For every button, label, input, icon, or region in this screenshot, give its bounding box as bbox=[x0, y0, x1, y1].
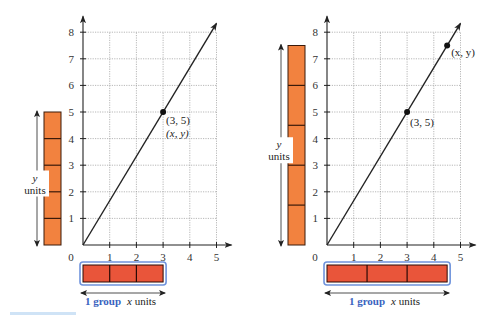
y-tick-label: 7 bbox=[313, 53, 319, 65]
data-point bbox=[444, 43, 450, 49]
proportional-line bbox=[327, 23, 461, 245]
origin-label: 0 bbox=[312, 251, 318, 263]
point-label: (3, 5) bbox=[410, 116, 434, 129]
graph-right: 12345123456780(3, 5)(x, y)yunits1 groupx… bbox=[267, 16, 476, 307]
y-tick-label: 6 bbox=[313, 79, 319, 91]
diagram-canvas: 12345123456780(3, 5)(x, y)yunits1 groupx… bbox=[0, 0, 486, 315]
vertical-tape-diagram: yunits bbox=[267, 45, 305, 247]
origin-label: 0 bbox=[68, 251, 74, 263]
group-label: 1 group bbox=[349, 295, 385, 307]
y-tick-label: 2 bbox=[313, 186, 319, 198]
x-units-label: x units bbox=[390, 295, 420, 307]
y-tick-label: 2 bbox=[69, 186, 75, 198]
x-tick-label: 4 bbox=[187, 251, 193, 263]
y-tick-label: 8 bbox=[69, 26, 75, 38]
point-label: (3, 5) bbox=[166, 114, 190, 127]
x-tick-label: 5 bbox=[214, 251, 220, 263]
x-tick-label: 5 bbox=[458, 251, 464, 263]
horizontal-tape-diagram: 1 groupx units bbox=[80, 262, 166, 307]
y-tick-label: 1 bbox=[313, 212, 319, 224]
point-label: (x, y) bbox=[451, 46, 475, 59]
y-tick-label: 5 bbox=[69, 106, 75, 118]
x-units-label: x units bbox=[126, 295, 156, 307]
y-units-label: units bbox=[24, 184, 45, 196]
y-tick-label: 4 bbox=[69, 133, 75, 145]
y-units-label: units bbox=[268, 150, 289, 162]
y-tick-label: 8 bbox=[313, 26, 319, 38]
vertical-tape-diagram: yunits bbox=[23, 111, 61, 246]
y-tick-label: 5 bbox=[313, 106, 319, 118]
y-tick-label: 6 bbox=[69, 79, 75, 91]
graph-left: 12345123456780(3, 5)(x, y)yunits1 groupx… bbox=[23, 16, 232, 307]
horizontal-tape-diagram: 1 groupx units bbox=[324, 262, 450, 307]
y-tick-label: 3 bbox=[69, 159, 75, 171]
y-tick-label: 7 bbox=[69, 53, 75, 65]
y-variable-label: y bbox=[32, 172, 38, 184]
data-point bbox=[404, 109, 410, 115]
group-label: 1 group bbox=[85, 295, 121, 307]
y-tick-label: 3 bbox=[313, 159, 319, 171]
y-variable-label: y bbox=[276, 138, 282, 150]
y-tick-label: 4 bbox=[313, 133, 319, 145]
point-label-variable: (x, y) bbox=[166, 127, 189, 140]
y-tick-label: 1 bbox=[69, 212, 75, 224]
proportional-line bbox=[83, 23, 217, 245]
